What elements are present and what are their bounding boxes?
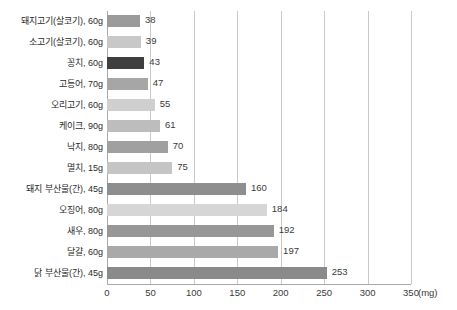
x-tick-label-0: 0 [104, 287, 109, 298]
bar [107, 15, 140, 27]
x-tick-label-50: 50 [145, 287, 156, 298]
bar-row: 75 [107, 158, 411, 179]
bar-value-label: 47 [153, 77, 164, 89]
category-label: 오리고기, 60g [3, 99, 103, 111]
x-axis-baseline [107, 284, 411, 285]
category-label: 꽁치, 60g [3, 57, 103, 69]
category-label: 낙지, 80g [3, 141, 103, 153]
bar [107, 78, 148, 90]
bar-value-label: 192 [279, 224, 295, 236]
bar-value-label: 184 [272, 203, 288, 215]
category-label: 멸치, 15g [3, 162, 103, 174]
bar-row: 70 [107, 137, 411, 158]
bar-value-label: 38 [145, 14, 156, 26]
category-label: 오징어, 80g [3, 204, 103, 216]
bar-row: 192 [107, 221, 411, 242]
bar-value-label: 70 [173, 140, 184, 152]
bar-value-label: 55 [160, 98, 171, 110]
bar-value-label: 75 [177, 161, 188, 173]
bar-row: 55 [107, 95, 411, 116]
bar [107, 204, 267, 216]
bar [107, 267, 327, 279]
category-axis-labels: 돼지고기(살코기), 60g소고기(살코기), 60g꽁치, 60g고등어, 7… [0, 11, 103, 284]
bar [107, 183, 246, 195]
bar-value-label: 253 [332, 266, 348, 278]
category-label: 고등어, 70g [3, 78, 103, 90]
gridline-350 [411, 11, 412, 284]
bar [107, 57, 144, 69]
x-tick-label-300: 300 [360, 287, 376, 298]
bar [107, 99, 155, 111]
bar-row: 47 [107, 74, 411, 95]
bar [107, 162, 172, 174]
x-tick-label-150: 150 [229, 287, 245, 298]
bar-row: 38 [107, 11, 411, 32]
category-label: 새우, 80g [3, 225, 103, 237]
cholesterol-bar-chart: 돼지고기(살코기), 60g소고기(살코기), 60g꽁치, 60g고등어, 7… [0, 0, 457, 310]
x-tick-label-200: 200 [273, 287, 289, 298]
category-label: 달걀, 60g [3, 246, 103, 258]
bar-value-label: 43 [149, 56, 160, 68]
category-label: 돼지고기(살코기), 60g [3, 15, 103, 27]
bar-value-label: 61 [165, 119, 176, 131]
bar-row: 39 [107, 32, 411, 53]
bar [107, 225, 274, 237]
bar-value-label: 197 [283, 245, 299, 257]
bar-value-label: 39 [146, 35, 157, 47]
plot-area: 3839434755617075160184192197253 [107, 11, 411, 284]
bar-row: 43 [107, 53, 411, 74]
category-label: 케이크, 90g [3, 120, 103, 132]
bar [107, 141, 168, 153]
category-label: 돼지 부산물(간), 45g [3, 183, 103, 195]
bar-value-label: 160 [251, 182, 267, 194]
bar [107, 120, 160, 132]
category-label: 소고기(살코기), 60g [3, 36, 103, 48]
bar-row: 61 [107, 116, 411, 137]
x-axis-unit-label: (mg) [418, 287, 438, 298]
bar [107, 36, 141, 48]
bar-row: 197 [107, 242, 411, 263]
x-tick-label-100: 100 [186, 287, 202, 298]
x-axis-tick-labels: (mg) 050100150200250300350 [0, 287, 457, 307]
bar-row: 253 [107, 263, 411, 284]
bar-row: 184 [107, 200, 411, 221]
bar [107, 246, 278, 258]
bar-row: 160 [107, 179, 411, 200]
x-tick-label-350: 350 [403, 287, 419, 298]
category-label: 닭 부산물(간), 45g [3, 267, 103, 279]
x-tick-label-250: 250 [316, 287, 332, 298]
